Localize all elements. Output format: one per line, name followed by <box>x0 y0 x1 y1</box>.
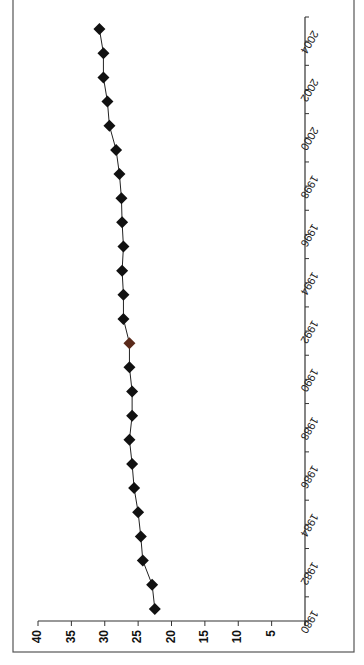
data-point-marker <box>116 265 128 277</box>
data-point-marker <box>116 216 128 228</box>
year-tick-label: 1990 <box>299 367 322 394</box>
year-tick-label: 2004 <box>299 29 322 56</box>
year-tick-label: 1986 <box>299 464 322 491</box>
data-point-marker <box>149 603 161 615</box>
data-point-marker <box>132 506 144 518</box>
value-tick-label: 5 <box>264 630 278 637</box>
year-tick-label: 1998 <box>299 174 322 201</box>
data-point-marker <box>113 168 125 180</box>
value-tick-label: 20 <box>164 630 178 644</box>
data-point-marker <box>137 555 149 567</box>
data-point-marker <box>123 361 135 373</box>
year-tick-label: 1982 <box>299 560 322 587</box>
year-tick-label: 1980 <box>299 608 322 635</box>
value-axis-ticks: 510152025303540 <box>30 621 305 643</box>
year-tick-label: 1984 <box>299 512 322 539</box>
data-point-marker <box>126 410 138 422</box>
year-tick-label: 1996 <box>299 222 322 249</box>
data-point-marker <box>123 434 135 446</box>
data-point-marker <box>117 289 129 301</box>
data-point-marker <box>115 192 127 204</box>
data-point-marker <box>126 458 138 470</box>
data-point-marker <box>101 96 113 108</box>
data-point-marker <box>97 47 109 59</box>
value-tick-label: 40 <box>30 630 44 644</box>
data-point-marker <box>117 313 129 325</box>
data-point-marker <box>135 530 147 542</box>
data-point-marker <box>110 144 122 156</box>
value-tick-label: 10 <box>230 630 244 644</box>
year-tick-label: 1992 <box>299 319 322 346</box>
data-point-marker <box>126 385 138 397</box>
data-point-marker <box>117 241 129 253</box>
series-markers <box>93 23 160 615</box>
data-point-marker <box>128 482 140 494</box>
line-chart: 510152025303540 198019821984198619881990… <box>0 0 364 665</box>
value-tick-label: 30 <box>97 630 111 644</box>
data-point-marker <box>123 337 135 349</box>
data-point-marker <box>93 23 105 35</box>
data-point-marker <box>97 71 109 83</box>
year-tick-label: 1994 <box>299 270 322 297</box>
value-tick-label: 25 <box>130 630 144 644</box>
axes <box>38 17 309 625</box>
year-axis-ticks: 1980198219841986198819901992199419961998… <box>299 17 322 636</box>
year-tick-label: 1988 <box>299 415 322 442</box>
value-tick-label: 15 <box>197 630 211 644</box>
year-tick-label: 2000 <box>299 125 322 152</box>
year-tick-label: 2002 <box>299 77 322 104</box>
data-point-marker <box>103 120 115 132</box>
value-tick-label: 35 <box>64 630 78 644</box>
data-point-marker <box>146 579 158 591</box>
